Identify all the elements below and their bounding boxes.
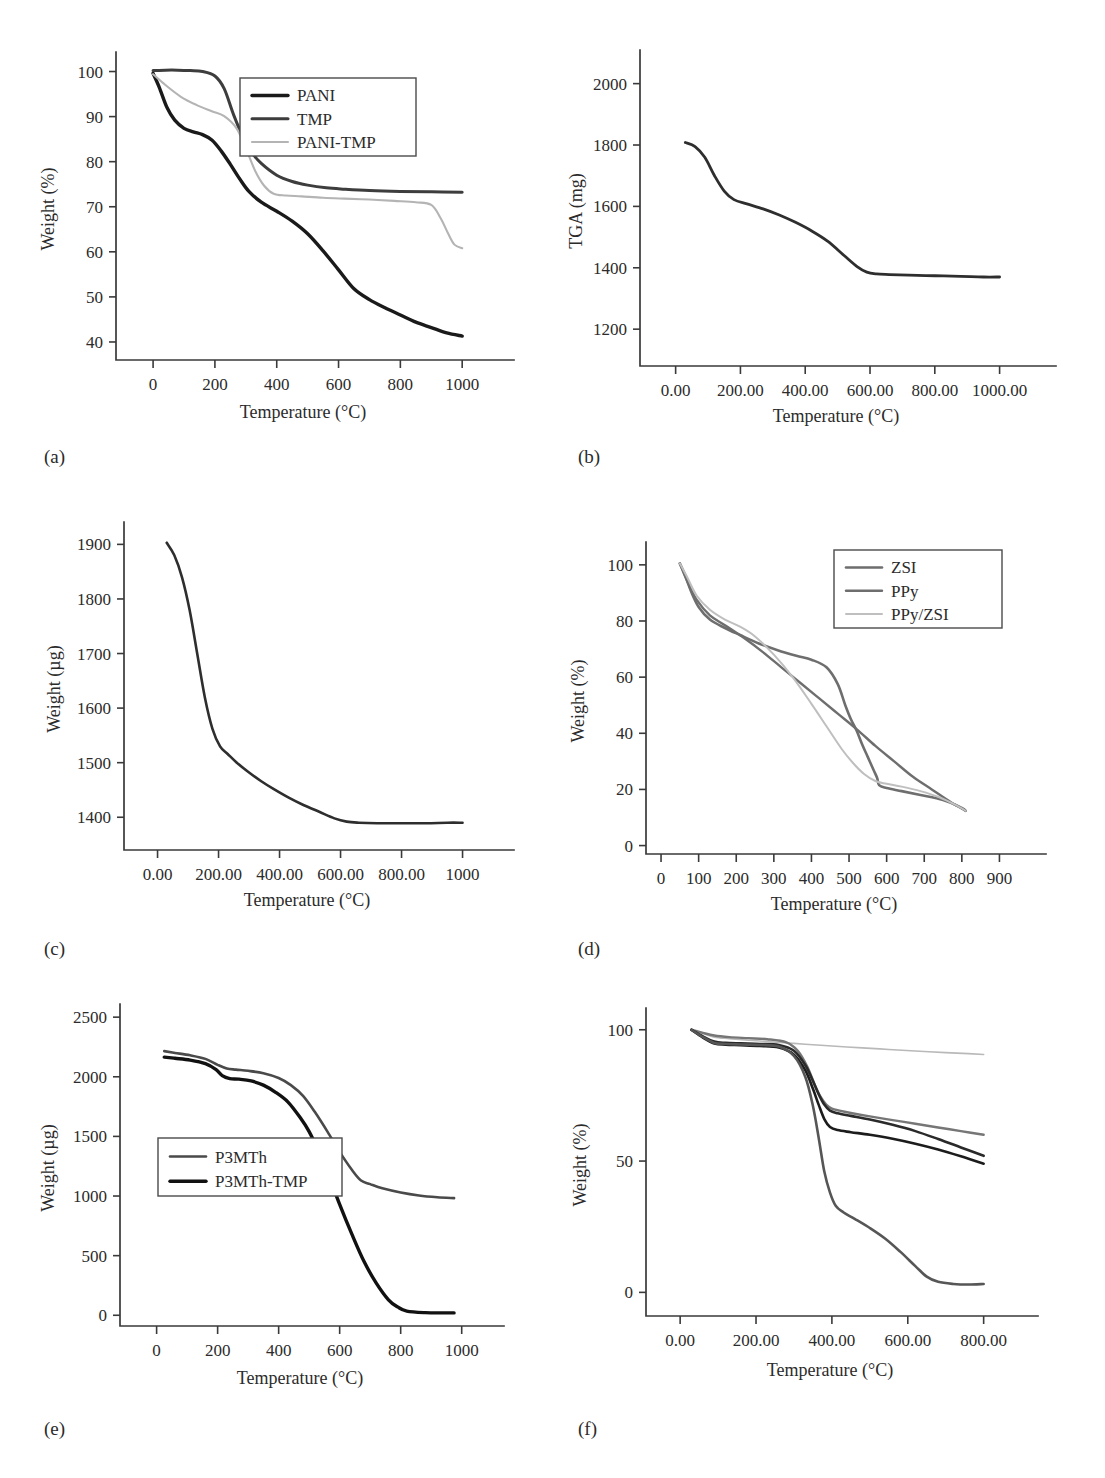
- y-tick-label: 90: [86, 108, 103, 127]
- legend-label: PPy: [891, 582, 919, 601]
- series-curve-curve-4: [692, 1030, 984, 1164]
- chart-c: 1400150016001700180019000.00200.00400.00…: [28, 498, 528, 918]
- figure-tga-panels: 40506070809010002004006008001000Temperat…: [0, 0, 1105, 1478]
- legend-label: ZSI: [891, 558, 917, 577]
- y-axis-label: Weight (%): [568, 659, 589, 742]
- panel-f: 0501000.00200.00400.00600.00800.00Temper…: [562, 978, 1062, 1398]
- x-tick-label: 100: [686, 869, 712, 888]
- y-tick-label: 50: [86, 288, 103, 307]
- x-tick-label: 600: [874, 869, 900, 888]
- y-tick-label: 40: [86, 333, 103, 352]
- y-tick-label: 1400: [77, 808, 111, 827]
- chart-d: 0204060801000100200300400500600700800900…: [562, 498, 1062, 918]
- y-tick-label: 1600: [593, 197, 627, 216]
- legend-label: TMP: [297, 110, 332, 129]
- series-curve-tga: [685, 143, 999, 277]
- x-tick-label: 400.00: [782, 381, 829, 400]
- x-tick-label: 200: [202, 375, 228, 394]
- y-tick-label: 40: [616, 724, 633, 743]
- y-tick-label: 2000: [73, 1068, 107, 1087]
- x-tick-label: 800: [388, 375, 414, 394]
- x-tick-label: 800: [388, 1341, 414, 1360]
- x-tick-label: 600: [326, 375, 352, 394]
- x-tick-label: 200.00: [717, 381, 764, 400]
- x-tick-label: 0.00: [665, 1331, 695, 1350]
- y-tick-label: 0: [99, 1306, 108, 1325]
- x-tick-label: 1000: [446, 865, 480, 884]
- x-axis-label: Temperature (°C): [244, 890, 370, 911]
- y-tick-label: 2000: [593, 75, 627, 94]
- y-tick-label: 20: [616, 780, 633, 799]
- panel-label-c: (c): [44, 938, 65, 960]
- y-tick-label: 1600: [77, 699, 111, 718]
- x-tick-label: 200: [723, 869, 749, 888]
- y-tick-label: 500: [82, 1247, 108, 1266]
- panel-c: 1400150016001700180019000.00200.00400.00…: [28, 498, 528, 918]
- x-tick-label: 0: [657, 869, 666, 888]
- y-axis-label: Weight (µg): [44, 645, 65, 732]
- y-tick-label: 1900: [77, 535, 111, 554]
- panel-d: 0204060801000100200300400500600700800900…: [562, 498, 1062, 918]
- series-curve-weight: [167, 543, 463, 824]
- y-tick-label: 0: [625, 837, 634, 856]
- y-axis-label: TGA (mg): [566, 173, 587, 249]
- x-tick-label: 400: [266, 1341, 292, 1360]
- y-tick-label: 1400: [593, 259, 627, 278]
- legend-label: P3MTh: [215, 1148, 267, 1167]
- x-tick-label: 400: [264, 375, 290, 394]
- y-tick-label: 100: [608, 1021, 634, 1040]
- x-tick-label: 800.00: [960, 1331, 1007, 1350]
- x-tick-label: 0: [152, 1341, 161, 1360]
- panel-label-b: (b): [578, 446, 600, 468]
- y-tick-label: 100: [78, 63, 104, 82]
- x-tick-label: 1000: [445, 1341, 479, 1360]
- series-curve-curve-3: [692, 1030, 984, 1156]
- y-tick-label: 2500: [73, 1008, 107, 1027]
- chart-e: 0500100015002000250002004006008001000Tem…: [28, 978, 528, 1398]
- y-tick-label: 1500: [73, 1127, 107, 1146]
- x-tick-label: 600.00: [317, 865, 364, 884]
- x-axis-label: Temperature (°C): [767, 1360, 893, 1381]
- panel-label-d: (d): [578, 938, 600, 960]
- panel-b: 120014001600180020000.00200.00400.00600.…: [562, 22, 1062, 432]
- x-axis-label: Temperature (°C): [237, 1368, 363, 1389]
- panel-label-f: (f): [578, 1418, 597, 1440]
- panel-e: 0500100015002000250002004006008001000Tem…: [28, 978, 528, 1398]
- y-tick-label: 100: [608, 556, 634, 575]
- x-tick-label: 0: [149, 375, 158, 394]
- y-tick-label: 1700: [77, 645, 111, 664]
- x-tick-label: 900: [987, 869, 1013, 888]
- panel-label-e: (e): [44, 1418, 65, 1440]
- x-tick-label: 800.00: [378, 865, 425, 884]
- legend: P3MThP3MTh-TMP: [158, 1138, 342, 1196]
- y-tick-label: 60: [86, 243, 103, 262]
- legend: ZSIPPyPPy/ZSI: [834, 550, 1002, 628]
- y-tick-label: 1200: [593, 320, 627, 339]
- x-tick-label: 600.00: [847, 381, 894, 400]
- series-curve-curve-5: [692, 1030, 984, 1285]
- panel-label-a: (a): [44, 446, 65, 468]
- x-tick-label: 700: [911, 869, 937, 888]
- x-tick-label: 800: [949, 869, 975, 888]
- y-axis-label: Weight (%): [38, 167, 59, 250]
- x-axis-label: Temperature (°C): [240, 402, 366, 423]
- legend-label: PANI: [297, 86, 335, 105]
- x-tick-label: 1000: [445, 375, 479, 394]
- axis-frame: [124, 522, 514, 850]
- x-tick-label: 1000.00: [972, 381, 1027, 400]
- y-tick-label: 80: [616, 612, 633, 631]
- axis-frame: [640, 50, 1056, 366]
- y-tick-label: 60: [616, 668, 633, 687]
- y-tick-label: 1800: [593, 136, 627, 155]
- x-tick-label: 0.00: [661, 381, 691, 400]
- x-tick-label: 200: [205, 1341, 231, 1360]
- x-tick-label: 500: [836, 869, 862, 888]
- x-tick-label: 400: [799, 869, 825, 888]
- y-tick-label: 1800: [77, 590, 111, 609]
- x-tick-label: 0.00: [143, 865, 173, 884]
- x-tick-label: 600.00: [884, 1331, 931, 1350]
- legend: PANITMPPANI-TMP: [240, 78, 416, 156]
- x-tick-label: 600: [327, 1341, 353, 1360]
- x-tick-label: 400.00: [256, 865, 303, 884]
- legend-label: PPy/ZSI: [891, 605, 949, 624]
